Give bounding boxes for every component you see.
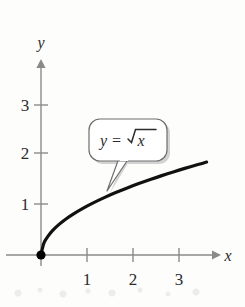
graph-figure: 1 2 3 1 2 3 x y [0, 0, 245, 307]
x-tick-labels: 1 2 3 [83, 270, 184, 289]
data-curve-sqrt-x [41, 162, 207, 255]
y-tick-label-2: 2 [21, 144, 30, 163]
y-axis-label: y [35, 34, 45, 52]
callout-radicand: x [136, 132, 144, 149]
x-tick-label-1: 1 [83, 270, 92, 289]
x-tick-label-2: 2 [129, 270, 138, 289]
callout-equals: = [111, 132, 122, 149]
callout-lhs: y [98, 132, 108, 150]
callout-tail-seam-cover [120, 156, 128, 161]
x-axis-label: x [223, 247, 231, 264]
y-tick-labels: 1 2 3 [21, 96, 30, 214]
x-axis-arrow-icon [212, 250, 221, 259]
y-tick-label-3: 3 [21, 96, 30, 115]
x-tick-label-3: 3 [175, 270, 184, 289]
origin-point-marker [36, 250, 45, 259]
plot-canvas: 1 2 3 1 2 3 x y [0, 0, 245, 307]
y-tick-label-1: 1 [21, 195, 30, 214]
y-axis-arrow-icon [36, 59, 45, 68]
equation-callout: y = x [89, 119, 170, 193]
